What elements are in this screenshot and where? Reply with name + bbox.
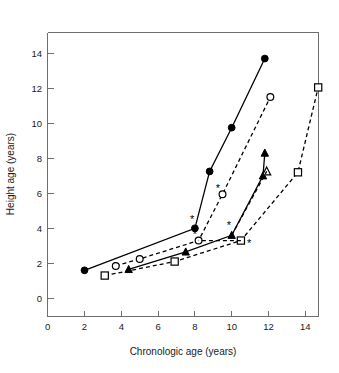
x-tick-label-0: 0 [45,321,50,332]
annotation-asterisk-5: * [247,237,252,249]
y-tick-label-2: 2 [37,258,42,269]
y-tick-label-0: 0 [37,293,42,304]
series-3-point-5 [261,149,268,156]
annotation-asterisk-3: * [216,182,221,194]
series-2-point-2 [136,256,143,263]
x-tick-label-6: 6 [155,321,160,332]
x-tick-label-12: 12 [263,321,274,332]
chart-figure: 02468101214 02468101214 ***** Chronologi… [0,0,339,373]
x-tick-label-10: 10 [226,321,237,332]
y-axis-ticks: 02468101214 [31,48,53,304]
x-tick-label-4: 4 [119,321,124,332]
y-axis-title: Height age (years) [5,133,16,215]
annotation-asterisk-4: * [227,219,232,231]
series-1-point-1 [81,267,88,274]
series-3-line [129,153,265,269]
y-tick-label-12: 12 [31,83,42,94]
annotation-asterisk-2: * [193,228,198,240]
series-2-point-5 [267,94,274,101]
x-tick-label-14: 14 [300,321,311,332]
y-tick-label-6: 6 [37,188,42,199]
series-4-point-2 [171,258,178,265]
series-4-line [105,87,318,275]
series-group [81,55,322,279]
series-1-point-4 [228,124,235,131]
series-1-point-5 [261,55,268,62]
y-tick-label-4: 4 [37,223,42,234]
series-4-point-4 [294,169,301,176]
y-tick-label-14: 14 [31,48,42,59]
annotation-asterisk-1: * [190,213,195,225]
series-4-point-1 [101,272,108,279]
series-4-point-5 [315,84,322,91]
series-1-point-3 [206,168,213,175]
series-5-connector [232,171,267,235]
x-axis-ticks: 02468101214 [45,311,311,333]
series-2-point-4 [219,191,226,198]
chart-plot-area: 02468101214 02468101214 ***** Chronologi… [0,0,339,373]
x-tick-label-8: 8 [192,321,197,332]
series-4 [101,84,322,279]
x-axis-title: Chronologic age (years) [130,346,237,357]
y-tick-label-8: 8 [37,153,42,164]
series-2-point-1 [112,263,119,270]
axis-frame [48,33,319,317]
y-tick-label-10: 10 [31,118,42,129]
x-tick-label-2: 2 [82,321,87,332]
